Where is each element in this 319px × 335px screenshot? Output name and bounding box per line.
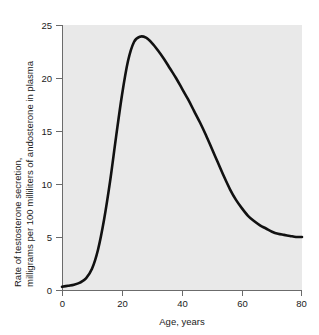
y-tick-label-25: 25 [41, 20, 52, 31]
y-axis-tick-labels: 0 5 10 15 20 25 [41, 20, 52, 296]
x-tick-label-0: 0 [60, 298, 65, 309]
y-tick-label-0: 0 [47, 285, 52, 296]
y-tick-label-10: 10 [41, 179, 52, 190]
x-axis-title: Age, years [159, 316, 205, 327]
x-tick-label-60: 60 [237, 298, 248, 309]
x-tick-label-80: 80 [296, 298, 307, 309]
y-axis-title-line1: Rate of testosterone secretion, [12, 158, 23, 287]
y-axis-ticks [56, 26, 63, 291]
y-axis: 0 5 10 15 20 25 [41, 20, 62, 296]
y-tick-label-5: 5 [47, 232, 52, 243]
x-axis: 0 20 40 60 80 Age, years [60, 291, 307, 328]
y-axis-title-line2: milligrams per 100 milliliters of andost… [24, 60, 35, 287]
y-axis-title: Rate of testosterone secretion, milligra… [12, 60, 35, 287]
chart-figure: 0 5 10 15 20 25 0 20 40 60 80 [0, 0, 319, 335]
x-tick-label-20: 20 [117, 298, 128, 309]
x-axis-ticks [63, 291, 302, 297]
x-tick-label-40: 40 [177, 298, 188, 309]
testosterone-secretion-line-chart: 0 5 10 15 20 25 0 20 40 60 80 [0, 0, 319, 335]
x-axis-tick-labels: 0 20 40 60 80 [60, 298, 307, 309]
y-tick-label-15: 15 [41, 126, 52, 137]
y-tick-label-20: 20 [41, 73, 52, 84]
